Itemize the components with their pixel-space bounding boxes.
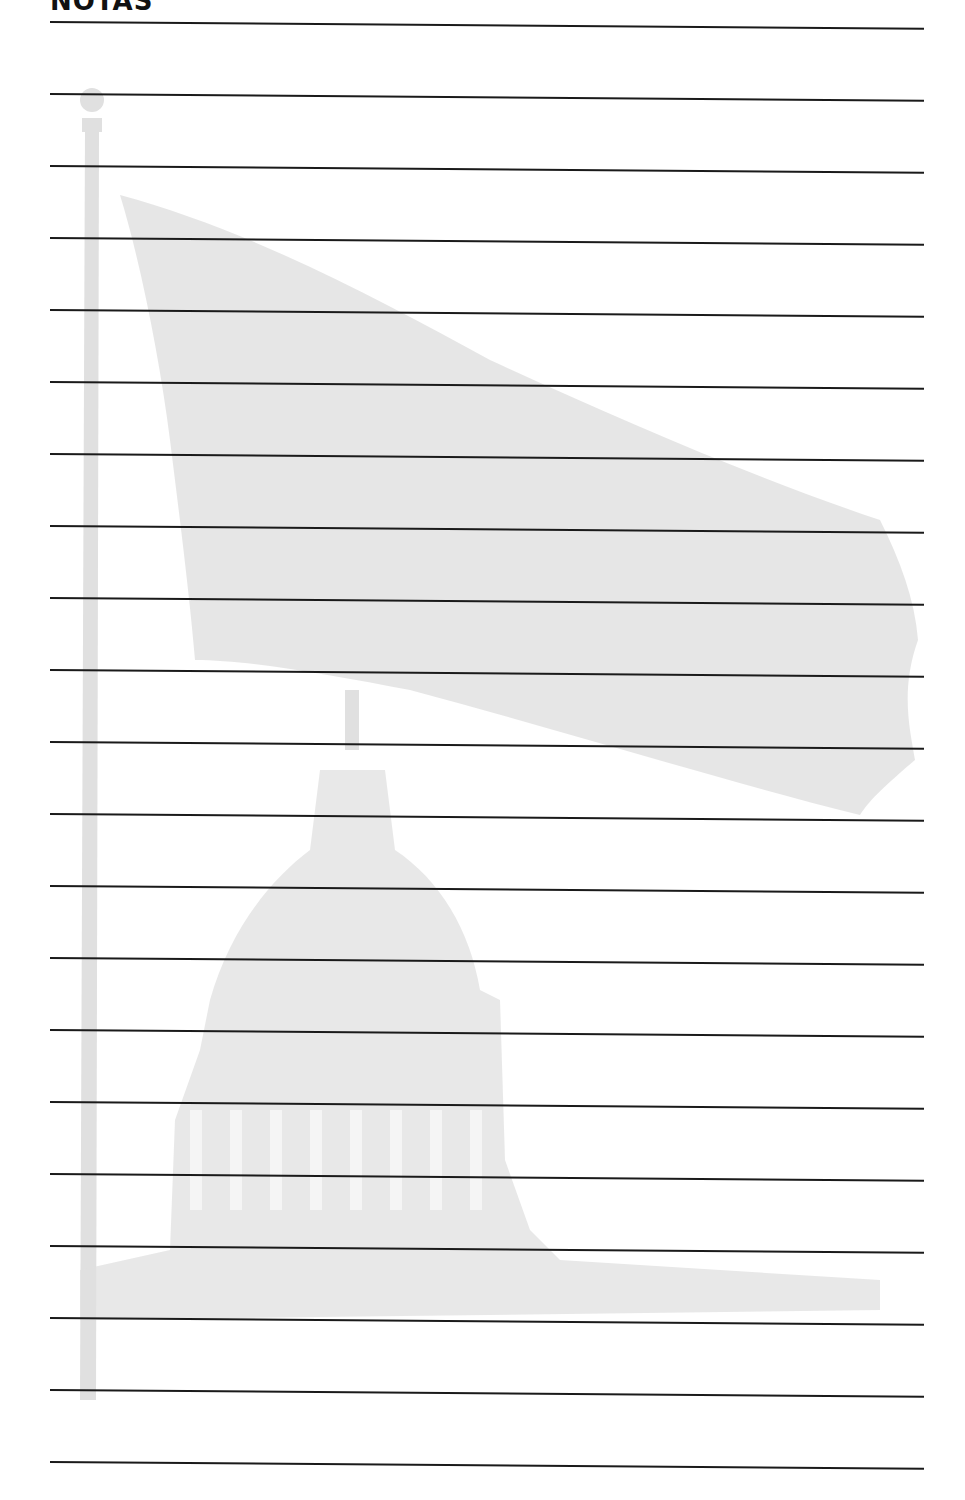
page-title: NOTAS bbox=[50, 0, 153, 16]
flagpole-finial-icon bbox=[80, 88, 104, 112]
capitol-icon bbox=[80, 770, 880, 1320]
flag-capitol-watermark bbox=[0, 0, 965, 1500]
flag-icon bbox=[120, 195, 918, 815]
